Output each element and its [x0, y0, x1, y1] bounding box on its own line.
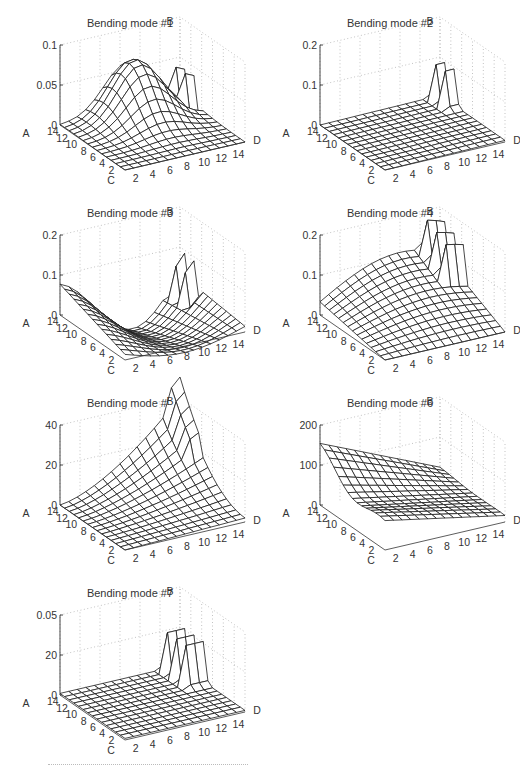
- z-tick-label: 200: [299, 419, 317, 431]
- d-tick-label: 14: [493, 338, 505, 350]
- figure-caption-truncated: [48, 764, 248, 769]
- c-tick-label: 6: [350, 341, 356, 353]
- axis-label-b: B: [426, 205, 433, 217]
- axis-label-b: B: [426, 15, 433, 27]
- axis-label-b: B: [166, 15, 173, 27]
- d-tick-label: 8: [184, 160, 190, 172]
- a-axis: [60, 45, 63, 125]
- c-tick-label: 6: [90, 341, 96, 353]
- axis-label-a: A: [22, 127, 29, 139]
- d-tick-label: 12: [475, 342, 487, 354]
- axis-label-b: B: [166, 205, 173, 217]
- d-tick-label: 12: [215, 342, 227, 354]
- surface-mesh: 00.10.214121086422468101214ABCD: [260, 0, 520, 190]
- axis-label-a: A: [22, 697, 29, 709]
- axis-label-c: C: [367, 554, 375, 566]
- a-axis: [320, 425, 323, 505]
- c-tick-label: 4: [99, 347, 105, 359]
- c-tick-label: 4: [99, 157, 105, 169]
- axis-label-c: C: [367, 174, 375, 186]
- surface-mesh: 00.050.114121086422468101214ABCD: [0, 0, 260, 190]
- c-tick-label: 6: [90, 151, 96, 163]
- c-tick-label: 10: [326, 328, 338, 340]
- d-tick-label: 12: [215, 722, 227, 734]
- z-tick-label: 100: [299, 459, 317, 471]
- d-tick-label: 2: [393, 172, 399, 184]
- a-axis: [60, 235, 63, 315]
- d-tick-label: 6: [167, 354, 173, 366]
- d-tick-label: 2: [393, 552, 399, 564]
- c-tick-label: 4: [359, 157, 365, 169]
- z-tick-label: 20: [45, 459, 57, 471]
- mesh-surface: [320, 220, 505, 360]
- d-tick-label: 10: [198, 726, 210, 738]
- c-tick-label: 8: [81, 145, 87, 157]
- surface-plot-7: Bending mode #7 0200.0514121086422468101…: [0, 570, 260, 760]
- d-tick-label: 8: [444, 350, 450, 362]
- z-tick-label: 0.2: [302, 39, 317, 51]
- c-tick-label: 8: [81, 715, 87, 727]
- d-tick-label: 4: [150, 738, 156, 750]
- surface-mesh: 0200.0514121086422468101214ABCD: [0, 570, 260, 760]
- axis-label-d: D: [513, 134, 520, 146]
- d-tick-label: 4: [410, 548, 416, 560]
- axis-label-b: B: [166, 395, 173, 407]
- d-tick-label: 12: [475, 532, 487, 544]
- d-tick-label: 14: [493, 148, 505, 160]
- d-tick-label: 6: [427, 354, 433, 366]
- d-tick-label: 12: [215, 532, 227, 544]
- c-tick-label: 10: [66, 138, 78, 150]
- c-tick-label: 6: [350, 531, 356, 543]
- mesh-surface: [320, 443, 505, 520]
- d-tick-label: 4: [150, 548, 156, 560]
- axis-label-b: B: [426, 395, 433, 407]
- d-tick-label: 2: [393, 362, 399, 374]
- d-tick-label: 8: [184, 540, 190, 552]
- axis-label-b: B: [166, 585, 173, 597]
- d-tick-label: 6: [167, 544, 173, 556]
- d-tick-label: 8: [184, 350, 190, 362]
- d-tick-label: 14: [233, 528, 245, 540]
- surface-mesh: 00.10.214121086422468101214ABCD: [0, 190, 260, 380]
- d-tick-label: 14: [233, 338, 245, 350]
- surface-plot-2: Bending mode #2 00.10.214121086422468101…: [260, 0, 520, 190]
- c-tick-label: 8: [341, 335, 347, 347]
- d-tick-label: 2: [133, 742, 139, 754]
- z-tick-label: 0.05: [37, 609, 58, 621]
- d-tick-label: 10: [198, 156, 210, 168]
- d-tick-label: 14: [233, 718, 245, 730]
- c-tick-label: 10: [326, 138, 338, 150]
- d-tick-label: 8: [184, 730, 190, 742]
- d-tick-label: 6: [427, 544, 433, 556]
- c-tick-label: 6: [90, 531, 96, 543]
- d-tick-label: 10: [458, 156, 470, 168]
- z-tick-label: 0.05: [37, 79, 58, 91]
- d-tick-label: 2: [133, 552, 139, 564]
- surface-plot-3: Bending mode #3 00.10.214121086422468101…: [0, 190, 260, 380]
- z-tick-label: 40: [45, 419, 57, 431]
- a-axis: [60, 425, 63, 505]
- axis-label-a: A: [22, 507, 29, 519]
- surface-mesh: 00.10.214121086422468101214ABCD: [260, 190, 520, 380]
- c-tick-label: 6: [350, 151, 356, 163]
- c-tick-label: 8: [81, 525, 87, 537]
- axis-label-c: C: [107, 744, 115, 756]
- surface-plot-4: Bending mode #4 00.10.214121086422468101…: [260, 190, 520, 380]
- z-tick-label: 0.1: [42, 269, 57, 281]
- axis-label-d: D: [513, 514, 520, 526]
- d-tick-label: 4: [150, 358, 156, 370]
- c-tick-label: 8: [81, 335, 87, 347]
- d-tick-label: 14: [493, 528, 505, 540]
- c-tick-label: 10: [66, 328, 78, 340]
- c-tick-label: 4: [359, 347, 365, 359]
- surface-mesh: 0204014121086422468101214ABCD: [0, 380, 260, 570]
- d-tick-label: 4: [410, 168, 416, 180]
- surface-plot-6: Bending mode #6 010020014121086422468101…: [260, 380, 520, 570]
- z-tick-label: 0.1: [302, 79, 317, 91]
- axis-label-c: C: [107, 554, 115, 566]
- c-tick-label: 8: [341, 525, 347, 537]
- surface-plot-1: Bending mode #1 00.050.11412108642246810…: [0, 0, 260, 190]
- d-tick-label: 14: [233, 148, 245, 160]
- axis-label-c: C: [367, 364, 375, 376]
- d-tick-label: 12: [475, 152, 487, 164]
